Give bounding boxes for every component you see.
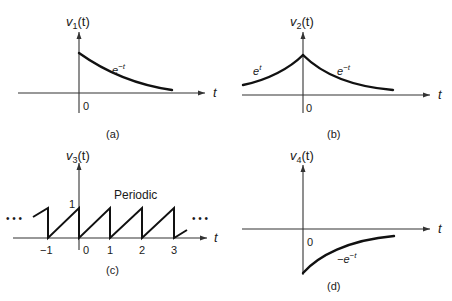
panel-c: v3(t) t 1 Periodic • • • • • • −1 0 1 2 …	[6, 148, 219, 276]
y-axis-label: v1(t)	[66, 14, 90, 31]
panel-caption: (a)	[106, 128, 119, 140]
tick-label: 0	[83, 244, 89, 256]
sawtooth-waveform	[33, 208, 187, 238]
panel-d: v4(t) t 0 −e−t (d)	[242, 148, 443, 292]
panel-caption: (c)	[106, 264, 119, 276]
tick-label: −1	[40, 244, 53, 256]
panel-b: v2(t) t 0 et e−t (b)	[242, 14, 443, 140]
decaying-exponential-curve	[79, 53, 172, 90]
t-axis-label: t	[214, 230, 219, 245]
y-axis-label: v2(t)	[290, 14, 314, 31]
tick-label: 2	[139, 244, 145, 256]
periodic-annotation: Periodic	[114, 188, 157, 202]
origin-label: 0	[307, 236, 313, 248]
growing-exponential-curve	[243, 55, 303, 85]
y-axis-label: v3(t)	[66, 148, 90, 165]
signals-figure: v1(t) t 0 e−t (a) v2(t) t 0 et e−t (b) v…	[0, 0, 452, 301]
t-axis-label: t	[438, 87, 443, 102]
amplitude-label: 1	[69, 198, 75, 210]
decaying-exponential-curve	[303, 55, 393, 90]
t-axis-label: t	[438, 221, 443, 236]
panel-caption: (b)	[327, 128, 340, 140]
tick-labels: −1 0 1 2 3	[40, 244, 177, 256]
curve-label: e−t	[112, 62, 126, 76]
y-axis-label: v4(t)	[290, 148, 314, 165]
ellipsis-right: • • •	[192, 213, 209, 224]
curve-label: −e−t	[337, 251, 357, 265]
ellipsis-left: • • •	[6, 213, 23, 224]
tick-label: 1	[107, 244, 113, 256]
right-curve-label: e−t	[337, 63, 351, 77]
t-axis-label: t	[213, 85, 218, 100]
panel-a: v1(t) t 0 e−t (a)	[18, 14, 218, 140]
panel-caption: (d)	[327, 280, 340, 292]
origin-label: 0	[83, 100, 89, 112]
origin-label: 0	[306, 102, 312, 114]
left-curve-label: et	[253, 63, 262, 77]
tick-label: 3	[171, 244, 177, 256]
